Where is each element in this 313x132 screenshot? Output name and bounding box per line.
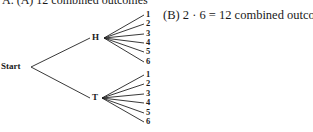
root-node-start: Start bbox=[1, 61, 21, 71]
outcome-count-caption: (B) 2 · 6 = 12 combined outcomes bbox=[163, 8, 313, 23]
leaf-h-6: 6 bbox=[146, 56, 150, 66]
leaf-t-4: 4 bbox=[146, 97, 150, 107]
branch-node-h: H bbox=[92, 32, 99, 42]
leaf-h-2: 2 bbox=[146, 18, 150, 28]
leaf-h-5: 5 bbox=[146, 46, 150, 56]
leaf-t-6: 6 bbox=[146, 116, 150, 126]
leaf-t-2: 2 bbox=[146, 78, 150, 88]
branch-node-t: T bbox=[92, 92, 98, 102]
